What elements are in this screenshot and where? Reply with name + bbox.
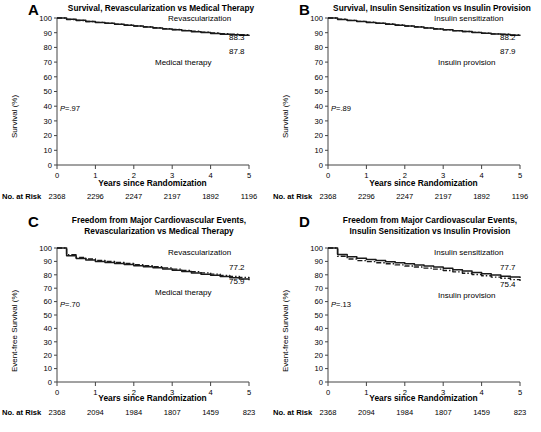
risk-count: 2247 (120, 192, 148, 201)
svg-text:100: 100 (310, 14, 323, 23)
svg-text:50: 50 (44, 87, 52, 96)
svg-text:50: 50 (315, 87, 323, 96)
risk-count: 2197 (158, 192, 186, 201)
panel-d: D Freedom from Major Cardiovascular Even… (271, 212, 541, 428)
panel-b-plot: 0102030405060708090100012345 (271, 0, 541, 200)
panel-b-risk-row: No. at Risk 236822962247219718921196 (271, 192, 541, 206)
svg-text:90: 90 (315, 29, 323, 38)
panel-b-x-axis-label: Years since Randomization (311, 178, 536, 188)
risk-count: 2368 (314, 408, 342, 417)
risk-count: 2368 (43, 408, 71, 417)
survival-curves-figure: A Survival, Revascularization vs Medical… (0, 0, 541, 432)
panel-c-series-1-label: Medical therapy (155, 288, 211, 297)
panel-a-x-axis-label: Years since Randomization (40, 178, 265, 188)
panel-a-pvalue-suffix: =.97 (65, 104, 80, 113)
svg-text:10: 10 (44, 364, 52, 373)
panel-d-risk-label: No. at Risk (273, 408, 312, 417)
panel-d-series-1-endpoint: 75.4 (500, 280, 516, 289)
svg-text:60: 60 (315, 73, 323, 82)
risk-count: 2247 (391, 192, 419, 201)
panel-b: B Survival, Insulin Sensitization vs Ins… (271, 0, 541, 216)
panel-d-pvalue-suffix: =.13 (336, 300, 351, 309)
risk-count: 1459 (197, 408, 225, 417)
svg-text:90: 90 (44, 257, 52, 266)
svg-text:0: 0 (319, 378, 323, 387)
svg-text:80: 80 (315, 271, 323, 280)
risk-count: 2197 (429, 192, 457, 201)
svg-text:10: 10 (44, 146, 52, 155)
svg-text:0: 0 (319, 161, 323, 170)
risk-count: 1892 (197, 192, 225, 201)
risk-count: 823 (506, 408, 534, 417)
panel-c-x-axis-label: Years since Randomization (40, 393, 265, 403)
risk-count: 2296 (81, 192, 109, 201)
panel-a-series-1-endpoint: 87.8 (229, 47, 245, 56)
panel-b-series-1-endpoint: 87.9 (500, 47, 516, 56)
panel-d-x-axis-label: Years since Randomization (311, 393, 536, 403)
svg-text:80: 80 (44, 43, 52, 52)
panel-c-pvalue: P=.70 (60, 300, 80, 309)
svg-text:40: 40 (44, 324, 52, 333)
risk-count: 2296 (352, 192, 380, 201)
svg-text:50: 50 (315, 311, 323, 320)
risk-count: 2094 (352, 408, 380, 417)
panel-d-series-1-label: Insulin provision (438, 291, 495, 300)
panel-c-series-0-label: Revascularization (168, 248, 231, 257)
risk-count: 1807 (158, 408, 186, 417)
panel-b-series-1-label: Insulin provision (438, 58, 495, 67)
svg-text:70: 70 (44, 284, 52, 293)
svg-text:100: 100 (39, 244, 52, 253)
panel-a-series-1-label: Medical therapy (155, 58, 211, 67)
svg-text:50: 50 (44, 311, 52, 320)
svg-text:20: 20 (44, 131, 52, 140)
risk-count: 2368 (314, 192, 342, 201)
panel-d-pvalue: P=.13 (331, 300, 351, 309)
svg-text:60: 60 (44, 73, 52, 82)
risk-count: 1892 (468, 192, 496, 201)
svg-text:60: 60 (315, 297, 323, 306)
svg-text:0: 0 (48, 378, 52, 387)
svg-text:30: 30 (315, 117, 323, 126)
risk-count: 1984 (391, 408, 419, 417)
panel-b-risk-label: No. at Risk (273, 192, 312, 201)
panel-d-series-0-label: Insulin sensitization (434, 248, 503, 257)
svg-text:40: 40 (315, 102, 323, 111)
svg-text:10: 10 (315, 146, 323, 155)
svg-text:30: 30 (44, 117, 52, 126)
panel-c-pvalue-suffix: =.70 (65, 300, 80, 309)
panel-a-risk-row: No. at Risk 236822962247219718921196 (0, 192, 270, 206)
risk-count: 2094 (81, 408, 109, 417)
svg-text:30: 30 (44, 338, 52, 347)
svg-text:80: 80 (315, 43, 323, 52)
svg-text:70: 70 (315, 58, 323, 67)
svg-text:20: 20 (315, 351, 323, 360)
panel-c-series-1-endpoint: 75.9 (229, 277, 245, 286)
svg-text:70: 70 (315, 284, 323, 293)
panel-c-risk-label: No. at Risk (2, 408, 41, 417)
svg-text:30: 30 (315, 338, 323, 347)
svg-text:70: 70 (44, 58, 52, 67)
svg-text:10: 10 (315, 364, 323, 373)
panel-d-series-0-endpoint: 77.7 (500, 263, 516, 272)
panel-a-pvalue: P=.97 (60, 104, 80, 113)
svg-text:20: 20 (44, 351, 52, 360)
panel-c-risk-row: No. at Risk 23682094198418071459823 (0, 408, 270, 422)
svg-text:60: 60 (44, 297, 52, 306)
panel-a-plot: 0102030405060708090100012345 (0, 0, 270, 200)
svg-text:100: 100 (39, 14, 52, 23)
panel-d-risk-row: No. at Risk 23682094198418071459823 (271, 408, 541, 422)
panel-a-series-0-endpoint: 88.3 (229, 33, 245, 42)
panel-b-series-0-label: Insulin sensitization (434, 14, 503, 23)
svg-text:80: 80 (44, 271, 52, 280)
panel-b-series-0-endpoint: 88.2 (500, 33, 516, 42)
svg-text:40: 40 (315, 324, 323, 333)
risk-count: 1807 (429, 408, 457, 417)
panel-a-risk-label: No. at Risk (2, 192, 41, 201)
risk-count: 2368 (43, 192, 71, 201)
panel-d-plot: 0102030405060708090100012345 (271, 212, 541, 417)
svg-text:40: 40 (44, 102, 52, 111)
panel-b-pvalue-suffix: =.89 (336, 104, 351, 113)
risk-count: 1196 (506, 192, 534, 201)
svg-text:20: 20 (315, 131, 323, 140)
svg-text:0: 0 (48, 161, 52, 170)
